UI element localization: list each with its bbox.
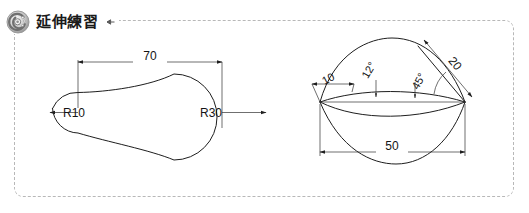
dimension-20: 20 bbox=[418, 40, 472, 102]
inner-lens-arcs bbox=[320, 92, 465, 117]
dimension-r30-label: R30 bbox=[200, 106, 222, 120]
page-title: 延伸練習 bbox=[36, 15, 98, 30]
dimension-70-label: 70 bbox=[143, 49, 157, 63]
section-header: 延伸練習 bbox=[6, 10, 119, 34]
ext-10-right bbox=[352, 84, 354, 92]
dimension-50-label: 50 bbox=[385, 139, 399, 153]
dimension-50: 50 bbox=[320, 104, 465, 156]
dimension-45-label: 45° bbox=[409, 71, 427, 91]
lens-figure: 20 45° 12° 10 bbox=[300, 0, 529, 213]
dimension-r10-label: R10 bbox=[63, 106, 85, 120]
dimension-70: 70 bbox=[78, 48, 222, 63]
ext-10-left bbox=[312, 84, 320, 102]
spiral-swirl-icon bbox=[6, 10, 30, 34]
dimension-10: 10 bbox=[312, 70, 354, 102]
screenshot-root: 延伸練習 70 bbox=[0, 0, 529, 213]
dimension-12-label: 12° bbox=[359, 60, 378, 80]
dimension-r30: R30 bbox=[200, 106, 266, 120]
left-arrow-icon bbox=[106, 17, 116, 27]
